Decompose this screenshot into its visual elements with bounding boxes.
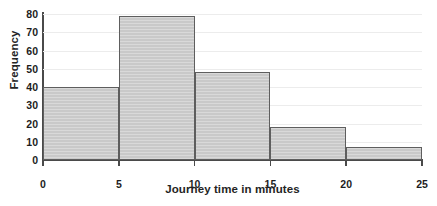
y-axis-tick-label: 30 (16, 99, 38, 111)
histogram-bar (270, 127, 346, 160)
y-axis-tick-label: 10 (16, 136, 38, 148)
x-axis-tick-mark (421, 160, 423, 166)
gridline (43, 14, 422, 15)
gridline (43, 51, 422, 52)
y-axis-tick-label: 50 (16, 63, 38, 75)
y-axis-tick-label: 0 (16, 154, 38, 166)
gridline (43, 69, 422, 70)
y-axis-tick-label: 20 (16, 118, 38, 130)
y-axis-tick-label: 70 (16, 26, 38, 38)
histogram-bar (43, 87, 119, 160)
x-axis-tick-mark (194, 160, 196, 166)
x-axis-title: Journey time in minutes (43, 183, 422, 195)
x-axis-tick-mark (42, 160, 44, 166)
y-axis-tick-label: 60 (16, 45, 38, 57)
histogram-bar (195, 72, 271, 160)
histogram-bar (346, 147, 422, 160)
y-axis-tick-label: 80 (16, 8, 38, 20)
x-axis-tick-mark (345, 160, 347, 166)
x-axis-tick-mark (118, 160, 120, 166)
plot-area: 010203040506070800510152025 (43, 14, 422, 160)
x-axis-tick-mark (270, 160, 272, 166)
histogram-chart: Frequency 010203040506070800510152025 Jo… (0, 0, 437, 206)
histogram-bar (119, 16, 195, 160)
gridline (43, 32, 422, 33)
y-axis-tick-label: 40 (16, 81, 38, 93)
